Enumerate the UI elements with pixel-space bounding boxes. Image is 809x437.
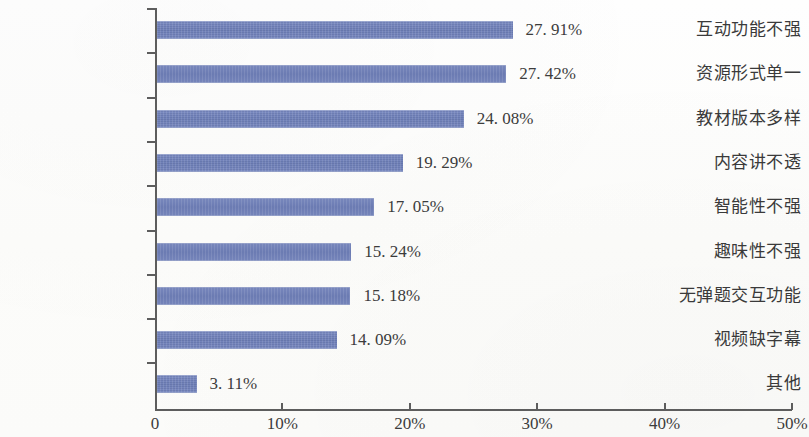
bar bbox=[157, 243, 351, 260]
bar-chart: 互动功能不强27. 91%资源形式单一27. 42%教材版本多样24. 08%内… bbox=[0, 0, 809, 437]
plot-area: 互动功能不强27. 91%资源形式单一27. 42%教材版本多样24. 08%内… bbox=[0, 0, 809, 437]
bar-value-label: 15. 18% bbox=[363, 286, 420, 306]
category-label: 互动功能不强 bbox=[659, 20, 809, 40]
bar-row: 智能性不强17. 05% bbox=[0, 185, 809, 229]
category-label: 内容讲不透 bbox=[659, 153, 809, 173]
bar-value-label: 27. 42% bbox=[519, 64, 576, 84]
bar-row: 无弹题交互功能15. 18% bbox=[0, 274, 809, 318]
category-label: 无弹题交互功能 bbox=[659, 286, 809, 306]
bar-row: 内容讲不透19. 29% bbox=[0, 141, 809, 185]
bar bbox=[157, 110, 464, 127]
bar-row: 视频缺字幕14. 09% bbox=[0, 318, 809, 362]
category-label: 视频缺字幕 bbox=[659, 330, 809, 350]
bar-row: 资源形式单一27. 42% bbox=[0, 52, 809, 96]
bar bbox=[157, 287, 350, 304]
bar bbox=[157, 22, 513, 39]
category-label: 教材版本多样 bbox=[659, 109, 809, 129]
bar-value-label: 19. 29% bbox=[416, 153, 473, 173]
x-axis-tick-label: 40% bbox=[649, 414, 680, 434]
bar bbox=[157, 154, 403, 171]
bar-value-label: 15. 24% bbox=[364, 242, 421, 262]
category-label: 其他 bbox=[659, 374, 809, 394]
bar-row: 互动功能不强27. 91% bbox=[0, 8, 809, 52]
x-axis-tick-label: 20% bbox=[394, 414, 425, 434]
bar-value-label: 14. 09% bbox=[350, 330, 407, 350]
category-label: 资源形式单一 bbox=[659, 64, 809, 84]
bar-value-label: 3. 11% bbox=[210, 374, 258, 394]
bar bbox=[157, 199, 374, 216]
bar bbox=[157, 332, 337, 349]
bar-value-label: 17. 05% bbox=[387, 197, 444, 217]
x-axis-tick-label: 50% bbox=[776, 414, 807, 434]
bar-row: 其他3. 11% bbox=[0, 362, 809, 406]
x-axis-line bbox=[155, 409, 792, 411]
bar-row: 趣味性不强15. 24% bbox=[0, 230, 809, 274]
bar bbox=[157, 376, 197, 393]
bar-value-label: 27. 91% bbox=[526, 20, 583, 40]
bar-value-label: 24. 08% bbox=[477, 109, 534, 129]
bar bbox=[157, 66, 506, 83]
bar-row: 教材版本多样24. 08% bbox=[0, 97, 809, 141]
x-axis-tick-label: 30% bbox=[522, 414, 553, 434]
x-axis-tick-label: 10% bbox=[267, 414, 298, 434]
x-axis-tick-label: 0 bbox=[151, 414, 160, 434]
category-label: 趣味性不强 bbox=[659, 242, 809, 262]
category-label: 智能性不强 bbox=[659, 197, 809, 217]
